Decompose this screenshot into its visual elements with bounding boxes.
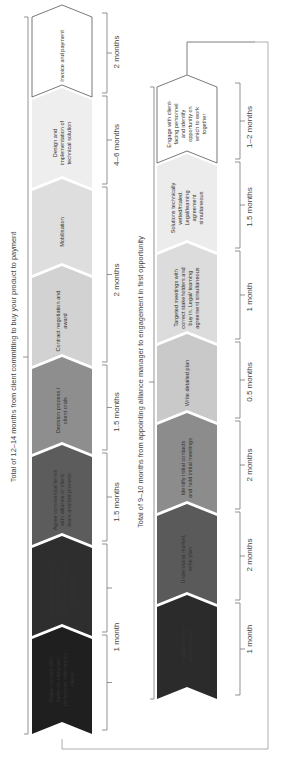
step-write-plan: Write detailed plan: [157, 346, 217, 422]
step-label: Design and implementation of technical s…: [52, 112, 73, 174]
step-label: Engagement of alliance lead: [180, 619, 194, 673]
total-row1-label: Total of 9–10 months from appointing all…: [136, 236, 145, 528]
step-mobilisation: Mobilisation: [32, 191, 92, 275]
duration-label: 1.5 months: [112, 392, 121, 432]
duration-label: 1.5 months: [245, 187, 254, 227]
step-label: Targeted meetings with correct stakehold…: [173, 267, 201, 329]
step-label: Understand market, write plan: [180, 528, 194, 590]
duration-label: 2 months: [245, 449, 254, 482]
duration-label: 2 months: [112, 264, 121, 297]
duration-label: 1 month: [112, 623, 121, 652]
step-label: Contract negotiation and award: [55, 290, 69, 352]
step-label: Make contact with systems integrator per…: [48, 651, 76, 708]
step-design-implementation: Design and implementation of technical s…: [32, 100, 92, 188]
step-label: Engage with client-facing personnel and …: [166, 99, 208, 149]
step-label: Identify initial contacts and hold initi…: [180, 437, 194, 499]
step-agree-commercial-terms: Agree commercial terms with alliance or …: [32, 457, 92, 545]
step-understand-market: Understand market, write plan: [157, 516, 217, 604]
step-targeted-meetings: Targeted meetings with correct stakehold…: [157, 255, 217, 343]
duration-label: 4–6 months: [112, 124, 121, 166]
duration-label: 2 months: [112, 36, 121, 69]
duration-label: 1 month: [245, 283, 254, 312]
step-label: Solutions technically vetted/trialed. Le…: [170, 178, 205, 238]
step-label: Invoice and payment: [59, 30, 66, 82]
step-label: Decision process / client orals: [55, 381, 69, 440]
duration-label: 1–2 months: [245, 106, 254, 148]
step-label: Write detailed plan: [184, 360, 191, 406]
step-identify-contacts: Identify initial contacts and hold initi…: [157, 425, 217, 513]
step-label: Agree commercial terms with alliance or …: [52, 469, 73, 531]
step-engagement-alliance-lead: Engagement of alliance lead: [157, 607, 217, 687]
step-agree-involvement: Agree involvement of your product in the…: [32, 548, 92, 636]
step-label: Agree involvement of your product in the…: [48, 560, 76, 622]
duration-label: 0.5 months: [245, 362, 254, 402]
step-contract-negotiation: Contract negotiation and award: [32, 278, 92, 366]
step-engage-client-facing: Engage with client-facing personnel and …: [157, 87, 217, 163]
total-row2-label: Total of 12–14 months from client commit…: [9, 232, 18, 483]
duration-label: 1 month: [245, 625, 254, 654]
step-make-contact-si: Make contact with systems integrator per…: [32, 639, 92, 722]
process-diagram: Engagement of alliance lead Understand m…: [0, 0, 286, 777]
step-label: Mobilisation: [59, 217, 66, 247]
duration-label: 2 months: [245, 539, 254, 572]
step-invoice-payment: Invoice and payment: [32, 17, 92, 97]
step-decision-process: Decision process / client orals: [32, 369, 92, 454]
step-solutions-vetted: Solutions technically vetted/trialed. Le…: [157, 166, 217, 252]
duration-label: 1.5 months: [112, 482, 121, 522]
